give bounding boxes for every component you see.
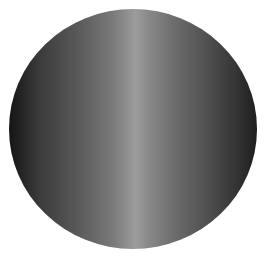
gradient-disc xyxy=(9,9,257,249)
